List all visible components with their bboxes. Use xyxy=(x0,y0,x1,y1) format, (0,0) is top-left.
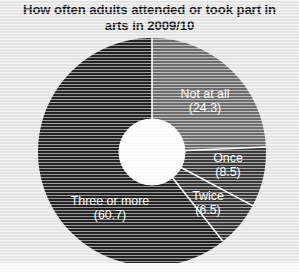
donut-chart: Not at all(24.3)Once(8.5)Twice(6.5)Three… xyxy=(0,0,299,272)
pie-slice-label-value: (6.5) xyxy=(195,203,220,217)
pie-slice-label-value: (24.3) xyxy=(189,101,221,115)
pie-slice-label: Twice(6.5) xyxy=(192,189,224,217)
bottom-margin-strip xyxy=(0,263,299,272)
chart-title-line-2: arts in 2009/10 xyxy=(8,18,291,34)
pie-slice-label-name: Once xyxy=(213,151,243,165)
donut-hole xyxy=(119,119,185,185)
pie-slice-label-name: Not at all xyxy=(181,87,230,101)
pie-slice-label-name: Three or more xyxy=(71,194,150,208)
donut-chart-svg: Not at all(24.3)Once(8.5)Twice(6.5)Three… xyxy=(0,0,299,272)
chart-title-line-1: How often adults attended or took part i… xyxy=(8,2,291,18)
chart-figure: How often adults attended or took part i… xyxy=(0,0,299,272)
pie-slice-label-value: (60.7) xyxy=(94,208,126,222)
pie-slice-label-value: (8.5) xyxy=(215,165,240,179)
pie-slice-label-name: Twice xyxy=(192,189,224,203)
pie-slice-label: Once(8.5) xyxy=(213,151,243,179)
chart-title: How often adults attended or took part i… xyxy=(0,2,299,33)
